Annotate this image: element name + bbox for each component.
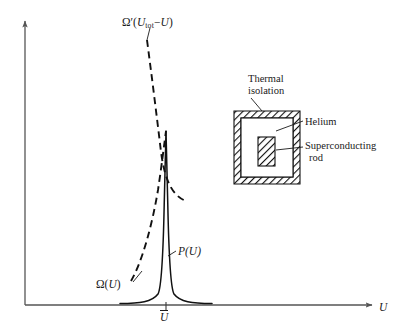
curve-omega (131, 131, 166, 281)
superconducting-rod-body (258, 137, 275, 166)
plot-canvas (0, 0, 400, 335)
p-of-u-prefix: P( (178, 245, 189, 257)
superconducting-rod-line-2: rod (305, 152, 376, 164)
axes-group (25, 21, 372, 310)
thermal-isolation-line-1: Thermal (248, 73, 284, 84)
x-axis-label: U (379, 301, 387, 314)
inset-label-helium: Helium (305, 116, 337, 128)
superconducting-rod-line-1: Superconducting (305, 140, 376, 151)
omega-prime-close-paren: ) (169, 16, 173, 28)
p-of-u-suffix: ) (197, 245, 201, 257)
omega-prime-symbol: Ω′( (122, 16, 137, 28)
inset-label-thermal-isolation: Thermal isolation (248, 73, 284, 97)
omega-var: U (108, 278, 116, 290)
omega-prime-subscript-tot: tot (145, 21, 154, 30)
inset-label-superconducting-rod: Superconducting rod (305, 140, 376, 165)
omega-prime-var-utot: U (137, 16, 145, 28)
p-of-u-var: U (189, 245, 197, 257)
curve-label-omega: Ω(U) (96, 278, 121, 291)
thermal-isolation-line-2: isolation (248, 85, 284, 96)
leader-thermal-isolation (251, 98, 262, 111)
omega-prime-var-u: U (161, 16, 169, 28)
inset-apparatus-diagram (234, 98, 303, 184)
omega-close-paren: ) (117, 278, 121, 290)
statistical-mechanics-figure: Ω′(Utot−U) P(U) Ω(U) U U Thermal isolati… (0, 0, 400, 335)
u-bar-glyph: U (160, 310, 168, 324)
omega-symbol-prefix: Ω( (96, 278, 108, 290)
x-axis-tick-label-ubar: U (160, 310, 168, 324)
curve-label-omega-prime: Ω′(Utot−U) (122, 16, 173, 31)
curve-label-p-of-u: P(U) (178, 245, 201, 258)
